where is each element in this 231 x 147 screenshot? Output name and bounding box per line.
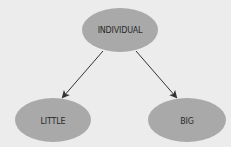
edge-individual-big	[136, 51, 176, 97]
node-label-little: LITTLE	[41, 117, 66, 126]
edge-individual-little	[63, 51, 103, 97]
diagram-canvas	[0, 0, 231, 147]
node-label-individual: INDIVIDUAL	[98, 26, 143, 35]
node-label-big: BIG	[180, 117, 193, 126]
